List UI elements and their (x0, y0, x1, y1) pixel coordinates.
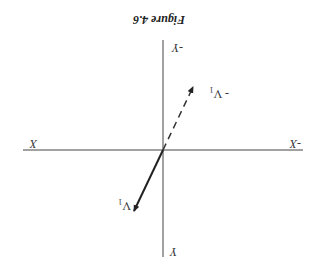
figure-canvas: Figure 4.6 Y -Y X -X V1 - V1 (0, 0, 317, 274)
vector-v1-arrow (134, 150, 163, 211)
vector-diagram: Figure 4.6 Y -Y X -X V1 - V1 (0, 0, 317, 274)
vector-neg-v1-label: - V1 (210, 85, 229, 101)
y-negative-label: -Y (171, 41, 183, 55)
vector-neg-v1-arrow (163, 87, 193, 150)
vector-v1-label: V1 (118, 197, 131, 213)
x-negative-label: -X (289, 137, 301, 151)
y-positive-label: Y (169, 245, 177, 259)
figure-title: Figure 4.6 (133, 13, 186, 27)
x-positive-label: X (29, 137, 38, 151)
